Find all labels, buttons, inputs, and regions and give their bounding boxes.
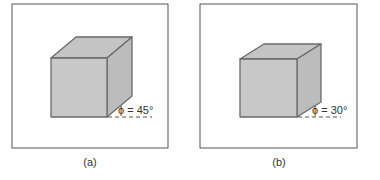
figure: ϕ = 45° ϕ = 30° [0, 0, 380, 180]
caption-b: (b) [259, 156, 299, 168]
panel-a: ϕ = 45° [12, 4, 168, 148]
angle-a-label: ϕ = 45° [118, 104, 153, 116]
cube-b [240, 44, 321, 117]
angle-b-label: ϕ = 30° [312, 104, 347, 116]
cube-b-front [240, 59, 297, 117]
caption-a: (a) [70, 156, 110, 168]
cube-a-front [51, 58, 107, 117]
panel-b: ϕ = 30° [200, 4, 357, 148]
